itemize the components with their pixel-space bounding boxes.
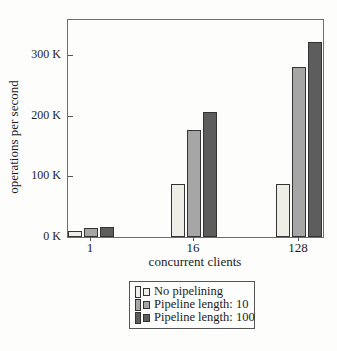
bar-pipeline-length-100-clients-16 [203, 112, 217, 237]
legend-label: Pipeline length: 100 [154, 311, 255, 324]
bar-pipeline-length-100-clients-1 [100, 227, 114, 237]
legend-row-pipeline-length-100: Pipeline length: 100 [135, 311, 249, 324]
x-tick-label: 16 [173, 241, 213, 255]
y-tick-label: 0 K [0, 229, 61, 243]
bar-pipeline-length-100-clients-128 [308, 42, 322, 237]
legend-bar-icon [135, 312, 141, 324]
x-axis-label: concurrent clients [67, 254, 323, 270]
bar-no-pipelining-clients-128 [276, 184, 290, 237]
bar-pipeline-length-10-clients-16 [187, 130, 201, 237]
x-tick-label: 128 [278, 241, 318, 255]
legend-bar-icon [135, 286, 141, 298]
legend-bar-icon [135, 299, 141, 311]
y-tick [68, 116, 73, 117]
legend-bar-icon [143, 301, 150, 309]
y-tick [68, 176, 73, 177]
y-tick [68, 55, 73, 56]
legend-bar-icon [143, 314, 150, 322]
y-tick-label: 200 K [0, 108, 61, 122]
bar-pipeline-length-10-clients-128 [292, 67, 306, 237]
chart: operations per second concurrent clients… [0, 0, 337, 351]
y-tick-label: 300 K [0, 47, 61, 61]
plot-area [67, 19, 324, 238]
legend-bar-icon [143, 288, 150, 296]
x-tick-label: 1 [70, 241, 110, 255]
legend: No pipeliningPipeline length: 10Pipeline… [129, 281, 255, 329]
y-tick-label: 100 K [0, 168, 61, 182]
bar-no-pipelining-clients-1 [68, 231, 82, 237]
bar-pipeline-length-10-clients-1 [84, 228, 98, 237]
bar-no-pipelining-clients-16 [171, 184, 185, 237]
